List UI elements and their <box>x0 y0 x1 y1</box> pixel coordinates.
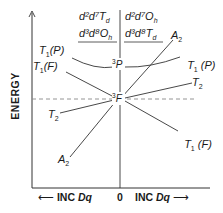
state-label: T <box>192 76 199 88</box>
right-header-config-1: d²d⁷ <box>125 10 145 22</box>
state-label: T <box>39 44 46 56</box>
t1f-right-line <box>125 101 178 131</box>
state-sub: 2 <box>65 160 69 167</box>
left-header-sym-2: O <box>100 27 109 39</box>
right-header: d²d⁷Oh d³d⁸Td <box>125 10 167 44</box>
state-suffix: (F) <box>195 138 212 150</box>
state-label: T <box>33 60 40 72</box>
left-header-sym-1: T <box>99 10 106 22</box>
state-sub: 2 <box>199 83 203 90</box>
x-axis-left-label: ⟵ INC Dq <box>38 191 92 203</box>
right-state-a2: A2 <box>171 29 182 43</box>
term-3f-letter: F <box>116 93 122 104</box>
x-left-var: Dq <box>78 191 92 203</box>
t1f-left-line <box>66 72 114 97</box>
state-label: T <box>184 138 191 150</box>
y-axis-label: ENERGY <box>9 66 21 126</box>
right-arrow-icon: ⟶ <box>173 191 189 203</box>
t2-left-line <box>60 100 114 113</box>
x-axis-right-label: INC Dq ⟶ <box>135 191 189 203</box>
right-state-t2: T2 <box>192 76 203 90</box>
right-header-sym-1: O <box>145 10 154 22</box>
a2-left-line <box>70 101 116 157</box>
left-state-t2: T2 <box>48 108 59 122</box>
state-suffix: (P) <box>50 44 65 56</box>
left-header-sub-1: d <box>106 17 110 24</box>
right-header-sub-1: h <box>154 17 158 24</box>
t2-right-line <box>125 83 192 98</box>
term-3p: 3P <box>112 58 122 70</box>
left-state-t1f: T1(F) <box>33 60 58 74</box>
term-3f: 3F <box>112 92 122 104</box>
state-suffix: (F) <box>44 60 58 72</box>
left-header: d²d⁷Td d³d⁸Oh <box>79 10 119 44</box>
right-state-t1f: T1 (F) <box>178 126 212 152</box>
x-axis-zero: 0 <box>117 191 123 203</box>
left-state-t1p: T1(P) <box>39 44 64 58</box>
left-arrow-icon: ⟵ <box>38 191 54 203</box>
t1p-curve-right <box>125 57 180 67</box>
a2-right-line <box>122 40 173 97</box>
state-label: T <box>187 59 194 71</box>
x-right-var: Dq <box>156 191 170 203</box>
state-sub: 2 <box>55 115 59 122</box>
x-right-inc: INC <box>135 191 153 203</box>
x-left-inc: INC <box>57 191 75 203</box>
left-header-config-2: d³d⁸ <box>79 27 100 39</box>
left-header-sub-2: h <box>108 34 112 41</box>
state-label: T <box>48 108 55 120</box>
right-state-t1p: T1 (P) <box>181 47 216 73</box>
left-header-config-1: d²d⁷ <box>79 10 99 22</box>
right-header-config-2: d³d⁸ <box>125 27 146 39</box>
left-state-a2: A2 <box>58 153 69 167</box>
t1p-curve <box>72 58 114 68</box>
right-header-sub-2: d <box>152 34 156 41</box>
term-3p-letter: P <box>116 59 123 70</box>
state-sub: 2 <box>178 36 182 43</box>
state-suffix: (P) <box>198 59 216 71</box>
